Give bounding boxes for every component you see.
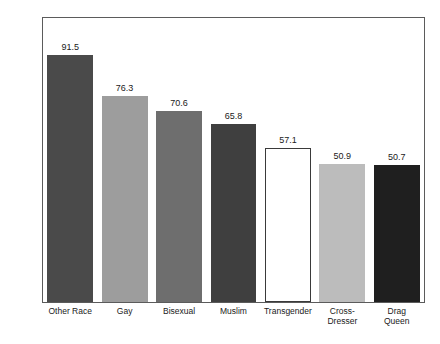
x-axis-label: Cross-Dresser [315,306,369,326]
bar[interactable] [156,111,202,302]
x-axis-label-line: Transgender [261,306,315,316]
bar[interactable] [265,148,311,302]
x-axis-label-line: Gay [97,306,151,316]
bar-slot: 50.7 [374,18,420,302]
bar-slot: 50.9 [319,18,365,302]
bar[interactable] [374,165,420,302]
bar-slot: 57.1 [265,18,311,302]
x-axis-label: Muslim [206,306,260,316]
bar-value-label: 50.9 [319,151,365,161]
x-axis-labels: Other RaceGayBisexualMuslimTransgenderCr… [43,306,424,344]
bar-slot: 70.6 [156,18,202,302]
x-axis-label-line: Dresser [315,316,369,326]
bar-value-label: 70.6 [156,98,202,108]
x-axis-label-line: Cross- [315,306,369,316]
bar-value-label: 50.7 [374,152,420,162]
bar[interactable] [211,124,257,302]
bar-slot: 91.5 [47,18,93,302]
x-axis-label-line: Other Race [43,306,97,316]
bar-chart: 020406080100 91.576.370.665.857.150.950.… [0,0,440,344]
x-axis-label: Bisexual [152,306,206,316]
x-axis-label-line: Queen [370,316,424,326]
bars-area: 91.576.370.665.857.150.950.7 [43,18,424,302]
bar[interactable] [47,55,93,302]
x-axis-label: DragQueen [370,306,424,326]
bar-slot: 76.3 [102,18,148,302]
x-axis-label-line: Drag [370,306,424,316]
bar-slot: 65.8 [211,18,257,302]
bar-value-label: 57.1 [265,135,311,145]
x-axis-label: Transgender [261,306,315,316]
bar[interactable] [319,164,365,302]
x-axis-label-line: Muslim [206,306,260,316]
bar-value-label: 91.5 [47,42,93,52]
x-axis-label: Other Race [43,306,97,316]
bar[interactable] [102,96,148,302]
y-axis: 020406080100 [0,0,42,344]
x-axis-label: Gay [97,306,151,316]
bar-value-label: 76.3 [102,83,148,93]
bar-value-label: 65.8 [211,111,257,121]
x-axis-label-line: Bisexual [152,306,206,316]
